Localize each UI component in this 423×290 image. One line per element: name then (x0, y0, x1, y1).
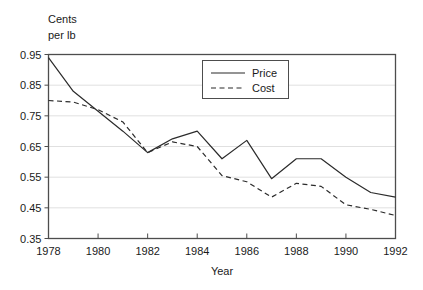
x-tick-label: 1980 (86, 245, 110, 257)
x-tick-label: 1990 (334, 245, 358, 257)
y-axis-title-line1: Cents (48, 13, 77, 25)
x-tick-label: 1992 (383, 245, 407, 257)
y-tick-label: 0.85 (20, 79, 41, 91)
legend-label-price: Price (252, 67, 277, 79)
y-axis-title-line2: per lb (48, 29, 76, 41)
chart-container: 0.350.450.550.650.750.850.95 19781980198… (0, 0, 423, 290)
gridlines (49, 85, 396, 208)
y-tick-label: 0.55 (20, 171, 41, 183)
y-tick-label: 0.45 (20, 202, 41, 214)
x-tick-label: 1986 (235, 245, 259, 257)
x-tick-marks (98, 234, 346, 239)
x-tick-label: 1978 (36, 245, 60, 257)
x-axis-title: Year (211, 265, 234, 277)
y-tick-label: 0.95 (20, 49, 41, 61)
line-chart: 0.350.450.550.650.750.850.95 19781980198… (0, 0, 423, 290)
legend-label-cost: Cost (252, 82, 275, 94)
y-tick-label: 0.35 (20, 233, 41, 245)
y-tick-label: 0.65 (20, 141, 41, 153)
y-tick-label: 0.75 (20, 110, 41, 122)
x-tick-label: 1984 (185, 245, 209, 257)
chart-legend: Price Cost (203, 61, 289, 99)
x-tick-label: 1988 (284, 245, 308, 257)
x-tick-labels: 19781980198219841986198819901992 (36, 245, 407, 257)
y-tick-labels: 0.350.450.550.650.750.850.95 (20, 49, 41, 245)
x-tick-label: 1982 (135, 245, 159, 257)
